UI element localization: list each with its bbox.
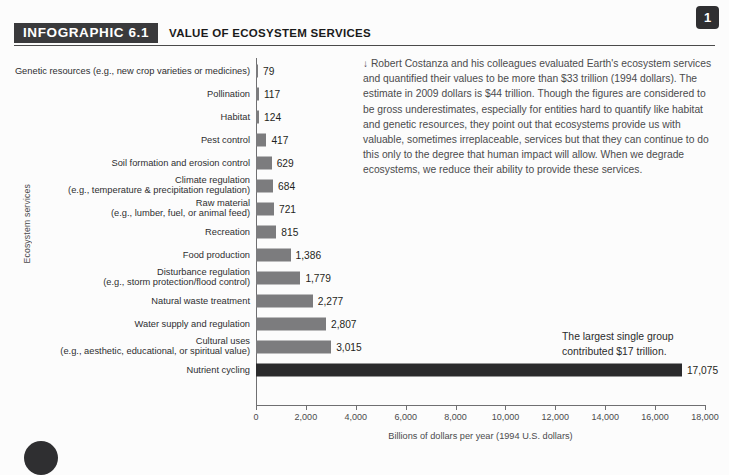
bar-value-label: 117 [264,88,280,99]
bar [256,179,273,192]
bar-container: 17,075 [256,363,718,376]
bar-row: Genetic resources (e.g., new crop variet… [0,59,729,82]
bar-value-label: 3,015 [336,341,362,352]
x-axis-tick [306,405,307,410]
bar-container: 3,015 [256,340,362,353]
bar-row-label: Habitat [10,111,250,122]
bar-row: Climate regulation(e.g., temperature & p… [0,174,729,197]
bar-container: 721 [256,202,296,215]
bar-row-sublabel: (e.g., storm protection/flood control) [10,278,250,289]
bar-value-label: 124 [264,111,281,122]
bar-value-label: 629 [277,157,294,168]
bar-row: Pollination117 [0,82,729,105]
bar-row-label: Nutrient cycling [10,364,250,375]
bar-row-label: Natural waste treatment [10,295,250,306]
bar-row: Food production1,386 [0,243,729,266]
x-axis-tick-label: 18,000 [691,412,719,422]
x-axis-tick [705,405,706,410]
bar-row-label: Genetic resources (e.g., new crop variet… [10,65,250,76]
bar-row: Disturbance regulation(e.g., storm prote… [0,266,729,289]
bar-row-label: Water supply and regulation [10,318,250,329]
bar-row: Soil formation and erosion control629 [0,151,729,174]
bar-row: Nutrient cycling17,075 [0,358,729,381]
x-axis-tick [456,405,457,410]
bar [256,202,274,215]
bar-row-sublabel: (e.g., temperature & precipitation regul… [10,186,250,197]
infographic-number-badge: INFOGRAPHIC 6.1 [14,23,158,43]
x-axis-tick [505,405,506,410]
bar-container: 117 [256,87,280,100]
x-axis-tick-label: 14,000 [591,412,619,422]
x-axis-tick [655,405,656,410]
x-axis-tick [555,405,556,410]
bar-row-label: Pest control [10,134,250,145]
bar-container: 629 [256,156,294,169]
bar-value-label: 721 [279,203,296,214]
x-axis-tick [356,405,357,410]
bar-value-label: 17,075 [687,364,718,375]
page-number-badge: 1 [696,6,719,29]
bar [256,317,326,330]
bar-row-sublabel: (e.g., aesthetic, educational, or spirit… [10,347,250,358]
bar-row-label: Pollination [10,88,250,99]
bar-value-label: 79 [263,65,274,76]
bar-row-label: Disturbance regulation(e.g., storm prote… [10,267,250,289]
bar-row: Cultural uses(e.g., aesthetic, education… [0,335,729,358]
bar-container: 2,807 [256,317,357,330]
bar-value-label: 684 [278,180,295,191]
bar [256,363,682,376]
bar-row-label: Cultural uses(e.g., aesthetic, education… [10,336,250,358]
bar-row-label: Raw material(e.g., lumber, fuel, or anim… [10,198,250,220]
bar [256,248,291,261]
bar-value-label: 417 [271,134,288,145]
x-axis-tick-label: 2,000 [295,412,318,422]
bar-container: 79 [256,64,274,77]
bar [256,225,276,238]
bar-container: 2,277 [256,294,343,307]
x-axis-tick-label: 10,000 [492,412,520,422]
x-axis-tick [406,405,407,410]
bar-row: Natural waste treatment2,277 [0,289,729,312]
bar-row: Recreation815 [0,220,729,243]
bar-value-label: 815 [281,226,298,237]
bar-row: Water supply and regulation2,807 [0,312,729,335]
bar [256,64,258,77]
x-axis-tick-label: 6,000 [394,412,417,422]
bar-container: 1,386 [256,248,321,261]
bar-container: 815 [256,225,298,238]
bar-row: Habitat124 [0,105,729,128]
bar-row: Raw material(e.g., lumber, fuel, or anim… [0,197,729,220]
bar [256,156,272,169]
bar [256,133,266,146]
bar-row-label: Recreation [10,226,250,237]
x-axis-tick [605,405,606,410]
x-axis-tick-label: 16,000 [641,412,669,422]
x-axis-line [256,405,705,406]
x-axis-title: Billions of dollars per year (1994 U.S. … [256,431,705,441]
bar [256,87,259,100]
x-axis-tick [256,405,257,410]
x-axis-tick-label: 8,000 [444,412,467,422]
x-axis-tick-label: 0 [253,412,258,422]
bar [256,294,313,307]
bar-value-label: 1,779 [305,272,331,283]
ecosystem-services-bar-chart: Ecosystem services Genetic resources (e.… [0,56,729,446]
bar-row-label: Food production [10,249,250,260]
x-axis-tick-label: 4,000 [345,412,368,422]
bar [256,110,259,123]
page-title: VALUE OF ECOSYSTEM SERVICES [158,23,371,43]
bar-value-label: 2,807 [331,318,357,329]
bar [256,340,331,353]
header-divider [14,45,715,46]
bar-container: 417 [256,133,288,146]
bar-row-label: Climate regulation(e.g., temperature & p… [10,175,250,197]
bar-row-label: Soil formation and erosion control [10,157,250,168]
bar-value-label: 1,386 [296,249,322,260]
corner-decoration [24,441,58,475]
bar [256,271,300,284]
bar-row: Pest control417 [0,128,729,151]
bar-value-label: 2,277 [318,295,344,306]
x-axis-tick-label: 12,000 [542,412,570,422]
bar-container: 124 [256,110,281,123]
bar-container: 1,779 [256,271,331,284]
